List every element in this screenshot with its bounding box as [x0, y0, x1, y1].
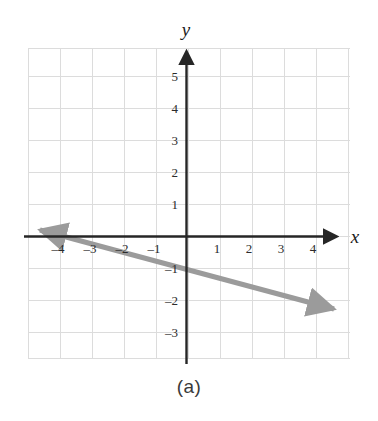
x-axis-label: x	[350, 226, 360, 247]
x-tick-label-3: 3	[278, 241, 285, 256]
y-tick-label--3: –3	[164, 325, 178, 340]
x-tick-label--1: –1	[147, 241, 161, 256]
y-axis-label: y	[180, 19, 191, 40]
x-tick-label-1: 1	[214, 241, 221, 256]
y-tick-label--2: –2	[164, 293, 178, 308]
x-tick-label--3: –3	[83, 241, 97, 256]
y-tick-label-4: 4	[172, 101, 179, 116]
x-tick-label-2: 2	[246, 241, 253, 256]
y-tick-label--1: –1	[164, 261, 178, 276]
x-tick-label-4: 4	[310, 241, 317, 256]
grid-vertical	[29, 48, 349, 358]
y-tick-label-2: 2	[172, 165, 179, 180]
x-tick-label--4: –4	[51, 241, 66, 256]
y-tick-label-5: 5	[172, 69, 179, 84]
coordinate-plane-chart: –4 –3 –2 –1 1 2 3 4 5 4 3 2 1 –1 –2 –3 y…	[0, 0, 378, 421]
figure-panel: –4 –3 –2 –1 1 2 3 4 5 4 3 2 1 –1 –2 –3 y…	[0, 0, 378, 421]
figure-caption: (a)	[0, 376, 378, 398]
x-tick-label--2: –2	[115, 241, 129, 256]
y-tick-label-3: 3	[172, 133, 179, 148]
y-tick-label-1: 1	[172, 197, 179, 212]
